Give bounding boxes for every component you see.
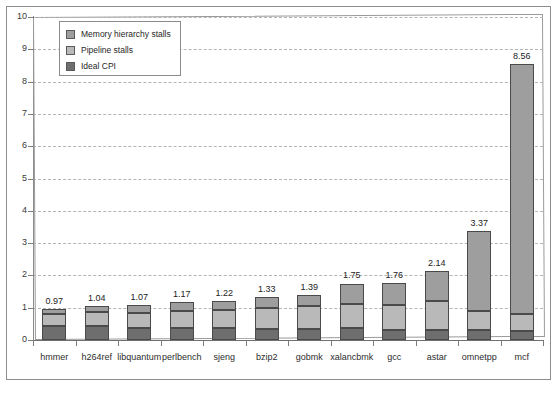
- y-axis-label: 9: [1, 44, 27, 53]
- gridline: [33, 82, 543, 83]
- legend-item-pipeline-stalls: Pipeline stalls: [66, 43, 174, 58]
- bar-segment-pipeline-stalls: [127, 313, 151, 329]
- gridline: [33, 211, 543, 212]
- bar-segment-ideal-cpi: [297, 329, 321, 340]
- bar-sjeng[interactable]: [212, 301, 236, 340]
- bar-segment-ideal-cpi: [467, 330, 491, 340]
- bar-segment-pipeline-stalls: [42, 314, 66, 326]
- bar-segment-pipeline-stalls: [382, 305, 406, 330]
- bar-value-label: 1.75: [332, 270, 372, 280]
- bar-segment-pipeline-stalls: [297, 306, 321, 330]
- bar-segment-pipeline-stalls: [467, 311, 491, 330]
- legend-label-pipeline: Pipeline stalls: [81, 46, 133, 55]
- y-axis-label: 8: [1, 77, 27, 86]
- y-axis-label: 2: [1, 270, 27, 279]
- bar-value-label: 8.56: [502, 51, 542, 61]
- bar-segment-memory-hierarchy-stalls: [382, 283, 406, 305]
- bar-segment-memory-hierarchy-stalls: [255, 297, 279, 308]
- chart-figure: 0123456789100.971.041.071.171.221.331.39…: [0, 0, 557, 395]
- bar-value-label: 0.97: [34, 296, 74, 306]
- bar-segment-pipeline-stalls: [255, 308, 279, 329]
- x-axis-tick: [203, 340, 204, 346]
- x-axis-tick: [33, 340, 34, 346]
- bar-segment-memory-hierarchy-stalls: [510, 64, 534, 315]
- y-axis-tick: [28, 211, 34, 212]
- bar-value-label: 1.39: [289, 282, 329, 292]
- legend-label-memory: Memory hierarchy stalls: [81, 30, 171, 39]
- y-axis-label: 0: [1, 335, 27, 344]
- legend-item-ideal-cpi: Ideal CPI: [66, 59, 174, 74]
- x-axis-tick: [373, 340, 374, 346]
- bar-segment-memory-hierarchy-stalls: [340, 284, 364, 305]
- bar-value-label: 1.76: [374, 270, 414, 280]
- bar-segment-ideal-cpi: [212, 328, 236, 340]
- y-axis-label: 4: [1, 206, 27, 215]
- x-axis-tick: [76, 340, 77, 346]
- legend-label-ideal: Ideal CPI: [81, 62, 116, 71]
- legend-swatch-pipeline-icon: [66, 46, 75, 55]
- bar-segment-memory-hierarchy-stalls: [425, 271, 449, 301]
- bar-libquantum[interactable]: [127, 305, 151, 340]
- bar-value-label: 1.04: [77, 293, 117, 303]
- legend-swatch-ideal-icon: [66, 62, 75, 71]
- legend-swatch-memory-icon: [66, 30, 75, 39]
- y-axis-label: 7: [1, 109, 27, 118]
- bar-segment-ideal-cpi: [170, 328, 194, 340]
- y-axis-label: 1: [1, 303, 27, 312]
- bar-perlbench[interactable]: [170, 302, 194, 340]
- bar-value-label: 1.33: [247, 284, 287, 294]
- gridline: [33, 17, 543, 18]
- bar-segment-pipeline-stalls: [212, 310, 236, 327]
- y-axis-tick: [28, 308, 34, 309]
- y-axis-tick: [28, 146, 34, 147]
- y-axis-tick: [28, 275, 34, 276]
- bar-gcc[interactable]: [382, 283, 406, 340]
- x-axis-tick: [118, 340, 119, 346]
- bar-omnetpp[interactable]: [467, 231, 491, 340]
- bar-segment-pipeline-stalls: [425, 301, 449, 330]
- x-axis-tick: [246, 340, 247, 346]
- bar-value-label: 1.07: [119, 292, 159, 302]
- x-axis-tick: [331, 340, 332, 346]
- bar-segment-ideal-cpi: [127, 328, 151, 340]
- bar-segment-memory-hierarchy-stalls: [127, 305, 151, 312]
- bar-astar[interactable]: [425, 271, 449, 340]
- bar-mcf[interactable]: [510, 64, 534, 340]
- bar-segment-pipeline-stalls: [85, 312, 109, 326]
- bar-segment-ideal-cpi: [510, 331, 534, 340]
- gridline: [33, 146, 543, 147]
- bar-h264ref[interactable]: [85, 306, 109, 340]
- bar-value-label: 3.37: [459, 218, 499, 228]
- bar-segment-memory-hierarchy-stalls: [170, 302, 194, 310]
- x-axis-tick: [161, 340, 162, 346]
- y-axis-tick: [28, 49, 34, 50]
- gridline: [33, 179, 543, 180]
- bar-segment-pipeline-stalls: [170, 311, 194, 329]
- y-axis-tick: [28, 114, 34, 115]
- gridline: [33, 114, 543, 115]
- y-axis-label: 3: [1, 238, 27, 247]
- x-axis-tick: [416, 340, 417, 346]
- y-axis-label: 6: [1, 141, 27, 150]
- bar-segment-memory-hierarchy-stalls: [467, 231, 491, 311]
- x-axis-tick: [501, 340, 502, 346]
- x-axis-tick: [288, 340, 289, 346]
- y-axis-tick: [28, 179, 34, 180]
- bar-segment-ideal-cpi: [42, 326, 66, 340]
- bar-hmmer[interactable]: [42, 309, 66, 340]
- bar-segment-pipeline-stalls: [340, 304, 364, 328]
- y-axis-tick: [28, 243, 34, 244]
- bar-segment-memory-hierarchy-stalls: [85, 306, 109, 312]
- y-axis-tick: [28, 17, 34, 18]
- bar-value-label: 1.22: [204, 288, 244, 298]
- bar-bzip2[interactable]: [255, 297, 279, 340]
- bar-gobmk[interactable]: [297, 295, 321, 340]
- x-axis-tick: [543, 340, 544, 346]
- bar-segment-memory-hierarchy-stalls: [212, 301, 236, 311]
- y-axis-label: 10: [1, 12, 27, 21]
- bar-segment-pipeline-stalls: [510, 314, 534, 331]
- bar-xalancbmk[interactable]: [340, 283, 364, 340]
- bar-value-label: 2.14: [417, 258, 457, 268]
- bar-value-label: 1.17: [162, 289, 202, 299]
- bar-segment-memory-hierarchy-stalls: [42, 309, 66, 314]
